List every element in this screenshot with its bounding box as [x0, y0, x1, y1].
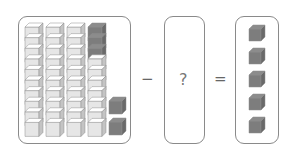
rod-cube — [67, 122, 81, 136]
ones-cube — [109, 122, 122, 135]
result-cube — [249, 121, 261, 133]
result-cube — [249, 29, 261, 41]
rod-cube — [88, 122, 102, 136]
ones-cube — [109, 101, 122, 114]
result-cube — [249, 98, 261, 110]
result-cube — [249, 52, 261, 64]
result-cube — [249, 75, 261, 87]
base-ten-blocks — [0, 0, 299, 158]
rod-cube — [46, 122, 60, 136]
rod-cube — [25, 122, 39, 136]
